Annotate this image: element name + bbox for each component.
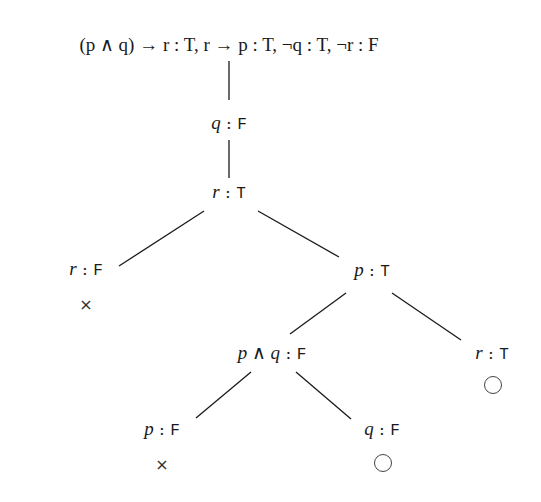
open-branch-circle-icon	[374, 454, 392, 472]
node-separator: :	[154, 419, 171, 439]
node-formula: p	[354, 259, 364, 280]
closed-branch-cross-icon: ×	[155, 455, 168, 474]
root-label: (p ∧ q) → r : T, r → p : T, ¬q : T, ¬r :…	[79, 34, 378, 55]
node-value: T	[236, 185, 246, 203]
node-value: F	[297, 346, 307, 364]
node-formula: q	[211, 112, 221, 133]
node-p-true: p : T	[354, 260, 390, 282]
edge-n2-n3	[119, 211, 204, 266]
node-separator: :	[221, 113, 238, 133]
edge-n4-n5	[290, 293, 346, 334]
node-separator: :	[364, 260, 381, 280]
node-value: F	[237, 116, 247, 134]
root-node: (p ∧ q) → r : T, r → p : T, ¬q : T, ¬r :…	[79, 35, 378, 55]
edge-n2-n4	[258, 211, 339, 257]
node-formula: p ∧ q	[238, 342, 280, 363]
node-q-false: q : F	[211, 113, 247, 135]
node-q-false-leaf: q : F	[364, 419, 400, 441]
node-r-false: r : F	[69, 259, 103, 281]
node-p-false: p : F	[144, 419, 180, 441]
node-formula: q	[364, 418, 374, 439]
edge-n5-n7	[196, 372, 251, 418]
node-separator: :	[374, 419, 391, 439]
node-value: T	[499, 346, 509, 364]
node-formula: p	[144, 418, 154, 439]
node-separator: :	[483, 343, 500, 363]
closed-branch-cross-icon: ×	[79, 295, 92, 314]
node-separator: :	[77, 259, 94, 279]
open-branch-circle-icon	[484, 376, 502, 394]
node-value: F	[93, 262, 103, 280]
tree-edges	[0, 0, 541, 502]
node-value: F	[390, 422, 400, 440]
node-value: F	[170, 422, 180, 440]
edge-n5-n8	[296, 372, 351, 419]
node-separator: :	[280, 343, 297, 363]
node-r-true-leaf: r : T	[475, 343, 509, 365]
node-p-and-q-false: p ∧ q : F	[238, 343, 307, 365]
edge-n4-n6	[392, 293, 461, 340]
node-r-true: r : T	[212, 182, 246, 204]
node-value: T	[380, 263, 390, 281]
node-separator: :	[220, 182, 237, 202]
